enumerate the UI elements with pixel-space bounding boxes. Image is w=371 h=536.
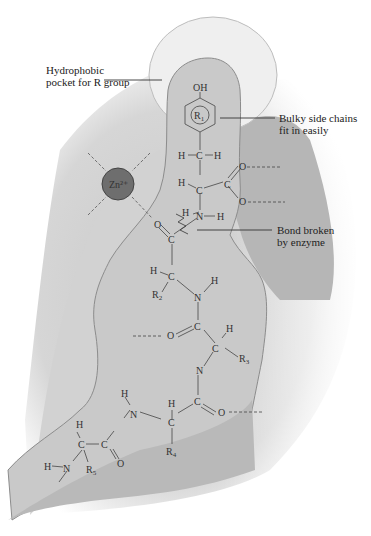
- svg-text:C: C: [196, 185, 203, 196]
- svg-text:H: H: [150, 265, 157, 276]
- svg-text:H: H: [168, 398, 175, 409]
- svg-text:N: N: [196, 365, 203, 376]
- svg-text:O: O: [239, 196, 246, 207]
- svg-text:N: N: [194, 292, 201, 303]
- svg-text:C: C: [168, 271, 175, 282]
- svg-text:C: C: [196, 150, 203, 161]
- diagram-canvas: Zn²⁺: [0, 0, 371, 536]
- svg-text:H: H: [211, 275, 218, 286]
- hydrophobic-pocket-label: Hydrophobic pocket for R group: [46, 64, 129, 88]
- svg-text:O: O: [154, 219, 161, 230]
- bulky-side-chains-label-line2: fit in easily: [279, 124, 357, 136]
- svg-text:N: N: [130, 409, 137, 420]
- bond-broken-label-line2: by enzyme: [277, 236, 334, 248]
- svg-text:C: C: [168, 234, 175, 245]
- svg-text:C: C: [168, 417, 175, 428]
- svg-text:C: C: [224, 179, 231, 190]
- svg-text:C: C: [194, 321, 201, 332]
- svg-text:O: O: [218, 407, 225, 418]
- hydrophobic-pocket-label-line2: pocket for R group: [46, 76, 129, 88]
- svg-text:C: C: [78, 439, 85, 450]
- svg-text:H: H: [178, 177, 185, 188]
- svg-text:H: H: [182, 207, 189, 218]
- bond-broken-label-line1: Bond broken: [277, 224, 334, 236]
- svg-text:N: N: [196, 211, 203, 222]
- svg-text:C: C: [194, 396, 201, 407]
- svg-text:O: O: [239, 161, 246, 172]
- svg-text:H: H: [76, 419, 83, 430]
- svg-text:OH: OH: [193, 82, 207, 93]
- svg-text:N: N: [63, 463, 70, 474]
- zinc-symbol: Zn²⁺: [109, 179, 128, 190]
- bond-broken-label: Bond broken by enzyme: [277, 224, 334, 248]
- svg-text:H: H: [217, 211, 224, 222]
- svg-text:H: H: [121, 388, 128, 399]
- bulky-side-chains-label-line1: Bulky side chains: [279, 112, 357, 124]
- svg-text:H: H: [214, 150, 221, 161]
- svg-text:O: O: [117, 458, 124, 469]
- svg-text:H: H: [178, 150, 185, 161]
- svg-text:H: H: [226, 323, 233, 334]
- svg-text:C: C: [101, 439, 108, 450]
- svg-text:C: C: [212, 343, 219, 354]
- hydrophobic-pocket-label-line1: Hydrophobic: [46, 64, 129, 76]
- svg-text:O: O: [167, 330, 174, 341]
- bulky-side-chains-label: Bulky side chains fit in easily: [279, 112, 357, 136]
- svg-text:H: H: [44, 461, 51, 472]
